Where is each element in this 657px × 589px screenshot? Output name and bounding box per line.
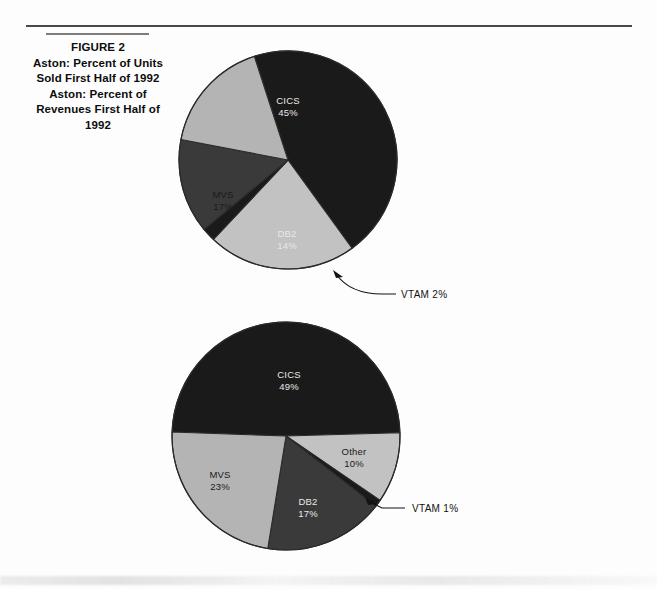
pie-1-label-cics-value: 45% [278,107,298,118]
figure-subtitle-line-5: 1992 [22,118,174,134]
pie-2-label-other-name: Other [342,446,367,457]
pie-chart-units-sold-svg: CICS 45% Other 22% DB2 14% MVS 17% VTAM … [170,38,480,308]
pie-2-callout-label-vtam: VTAM 1% [412,503,458,514]
pie-1-callout-arrow-icon [333,270,343,278]
pie-1-label-db2-value: 14% [277,240,297,251]
pie-1-label-other-value: 22% [345,189,365,200]
pie-1-callout-label-vtam: VTAM 2% [401,289,447,300]
document-page: FIGURE 2 Aston: Percent of Units Sold Fi… [0,0,657,589]
pie-1-callout-leader-line [336,274,396,294]
scan-artifact [0,576,657,585]
caption-rule [46,33,149,35]
pie-1-label-cics-name: CICS [276,95,300,106]
figure-subtitle-line-2: Sold First Half of 1992 [22,71,174,87]
pie-chart-revenues-svg: CICS 49% Other 10% DB2 17% MVS 23% VTAM … [160,318,490,568]
pie-2-label-mvs-value: 23% [210,481,230,492]
pie-1-label-other-name: Other [343,177,368,188]
figure-number: FIGURE 2 [22,40,174,56]
figure-subtitle-line-4: Revenues First Half of [22,102,174,118]
header-rule [26,25,632,27]
pie-2-label-cics-value: 49% [279,381,299,392]
figure-subtitle-line-1: Aston: Percent of Units [22,56,174,72]
figure-caption: FIGURE 2 Aston: Percent of Units Sold Fi… [22,40,174,133]
pie-chart-units-sold: CICS 45% Other 22% DB2 14% MVS 17% VTAM … [170,38,480,308]
pie-2-label-db2-name: DB2 [298,496,317,507]
pie-1-label-mvs-value: 17% [213,201,233,212]
pie-1-label-mvs-name: MVS [212,189,233,200]
pie-2-label-cics-name: CICS [277,369,301,380]
pie-2-label-db2-value: 17% [298,508,318,519]
pie-1-vtam-callout: VTAM 2% [333,270,447,300]
pie-2-label-mvs-name: MVS [209,469,230,480]
pie-chart-revenues: CICS 49% Other 10% DB2 17% MVS 23% VTAM … [160,318,490,568]
pie-2-slices [172,322,400,550]
pie-1-label-db2-name: DB2 [277,228,296,239]
pie-2-label-other-value: 10% [344,458,364,469]
figure-subtitle-line-3: Aston: Percent of [22,87,174,103]
